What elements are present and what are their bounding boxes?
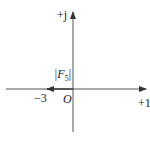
vector-endpoint-label: −3 (34, 92, 47, 104)
axes-graphic (0, 0, 150, 143)
magnitude-label-main: |F (54, 67, 65, 81)
magnitude-label-bar: | (69, 67, 71, 81)
real-axis-label: +1 (138, 97, 150, 109)
imaginary-axis-label: +j (57, 9, 67, 21)
origin-label: O (63, 93, 72, 105)
phasor-diagram: +j +1 O −3 |F5| (0, 0, 150, 143)
vector-magnitude-label: |F5| (54, 68, 71, 83)
